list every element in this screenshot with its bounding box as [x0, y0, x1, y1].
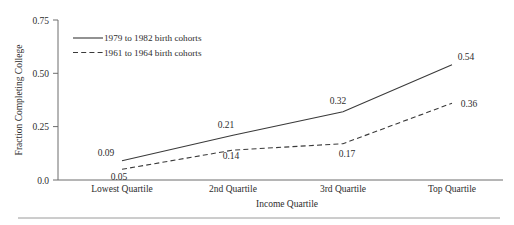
x-axis-title: Income Quartile — [256, 199, 318, 209]
value-label-dashed-0: 0.05 — [111, 172, 128, 182]
x-category-label-3rd-quartile: 3rd Quartile — [320, 184, 366, 194]
value-label-solid-1: 0.21 — [218, 120, 235, 130]
legend-label-1961-1964: 1961 to 1964 birth cohorts — [104, 48, 202, 58]
value-label-dashed-2: 0.17 — [339, 149, 356, 159]
y-axis-title: Fraction Completing College — [14, 45, 24, 156]
line-chart: 0.75 0.50 0.25 0.0 Fraction Completing C… — [0, 0, 514, 225]
series-line-1961-1964 — [122, 103, 452, 169]
y-tick-label-000: 0.0 — [37, 176, 49, 186]
value-label-solid-0: 0.09 — [98, 148, 115, 158]
legend: 1979 to 1982 birth cohorts 1961 to 1964 … — [73, 33, 202, 58]
value-label-dashed-3: 0.36 — [461, 99, 478, 109]
value-label-solid-2: 0.32 — [330, 96, 347, 106]
x-category-label-top-quartile: Top Quartile — [428, 184, 476, 194]
x-category-label-lowest-quartile: Lowest Quartile — [91, 184, 152, 194]
y-tick-label-025: 0.25 — [32, 122, 49, 132]
figure-container: 0.75 0.50 0.25 0.0 Fraction Completing C… — [0, 0, 514, 225]
series-line-1979-1982 — [122, 65, 452, 161]
value-label-dashed-1: 0.14 — [223, 151, 240, 161]
legend-label-1979-1982: 1979 to 1982 birth cohorts — [104, 33, 202, 43]
value-label-solid-3: 0.54 — [458, 52, 475, 62]
x-category-label-2nd-quartile: 2nd Quartile — [209, 184, 257, 194]
y-tick-label-050: 0.50 — [32, 69, 49, 79]
y-tick-label-075: 0.75 — [32, 16, 49, 26]
